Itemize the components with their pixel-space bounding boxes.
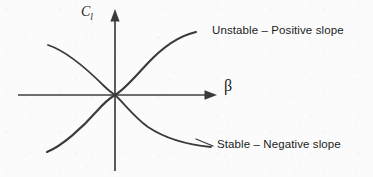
figure-container: Cl β Unstable – Positive slope Stable – … [0,0,373,177]
unstable-positive-slope-curve [47,32,196,152]
y-axis-label: Cl [81,4,93,22]
y-axis-group [110,9,119,171]
stable-curve-annotation: Stable – Negative slope [217,138,341,150]
stable-negative-slope-curve [48,45,211,147]
y-axis-label-symbol: C [81,4,90,19]
unstable-curve-annotation: Unstable – Positive slope [212,24,344,36]
x-axis-label: β [224,77,232,95]
y-axis-arrowhead-icon [110,9,119,22]
x-axis-arrowhead-icon [205,90,218,99]
y-axis-label-subscript: l [90,12,93,22]
